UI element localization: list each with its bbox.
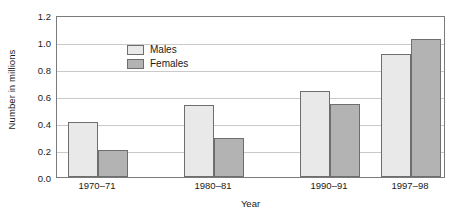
plot-area: MalesFemales xyxy=(56,16,445,178)
y-axis-tick: 1.0 xyxy=(38,38,51,49)
legend-swatch-males-icon xyxy=(127,45,144,55)
y-axis-tick: 0.8 xyxy=(38,65,51,76)
x-axis-tick: 1980–81 xyxy=(195,180,232,191)
y-axis-label: Number in millions xyxy=(2,0,22,178)
bar-females-1 xyxy=(214,138,244,177)
bar-males-0 xyxy=(68,122,98,177)
y-axis-tick: 0.6 xyxy=(38,92,51,103)
legend-item-males: Males xyxy=(127,43,188,56)
bar-males-1 xyxy=(184,105,214,177)
bar-females-0 xyxy=(98,150,128,177)
x-axis-tick: 1970–71 xyxy=(79,180,116,191)
legend: MalesFemales xyxy=(127,43,188,71)
y-axis-tick: 0.0 xyxy=(38,173,51,184)
x-axis-tick: 1990–91 xyxy=(311,180,348,191)
bar-males-3 xyxy=(381,54,411,177)
y-axis-tick-labels: 0.00.20.40.60.81.01.2 xyxy=(20,0,54,178)
x-axis-tick-labels: 1970–711980–811990–911997–98 xyxy=(56,180,445,196)
legend-label: Males xyxy=(150,44,177,55)
y-axis-tick: 0.4 xyxy=(38,119,51,130)
bar-chart-figure: Number in millions 0.00.20.40.60.81.01.2… xyxy=(0,0,468,221)
y-axis-tick: 1.2 xyxy=(38,11,51,22)
x-axis-tick: 1997–98 xyxy=(392,180,429,191)
legend-swatch-females-icon xyxy=(127,59,144,69)
x-axis-label: Year xyxy=(56,198,445,209)
bar-males-2 xyxy=(300,91,330,177)
bar-females-3 xyxy=(411,39,441,177)
y-axis-label-text: Number in millions xyxy=(7,49,18,129)
legend-item-females: Females xyxy=(127,57,188,70)
bar-females-2 xyxy=(330,104,360,177)
y-axis-tick: 0.2 xyxy=(38,146,51,157)
gridline xyxy=(57,44,444,45)
legend-label: Females xyxy=(150,58,188,69)
